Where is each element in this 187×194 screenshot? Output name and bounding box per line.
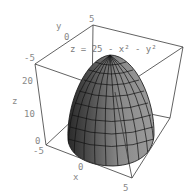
z-tick-20: 20 — [22, 76, 33, 86]
x-axis-label: x — [73, 172, 79, 182]
paraboloid-plot: z = 25 - x² - y² 5 0 y -5 20 z 10 0 -5 0… — [0, 0, 187, 194]
y-tick-5: 5 — [89, 14, 94, 24]
x-tick-0: 0 — [78, 162, 83, 172]
paraboloid-surface — [68, 55, 154, 167]
z-tick-10: 10 — [24, 109, 35, 119]
y-tick-0: 0 — [64, 32, 69, 42]
x-tick-5: 5 — [123, 183, 128, 193]
plot-title: z = 25 - x² - y² — [70, 44, 157, 54]
z-axis-label: z — [12, 96, 17, 106]
y-tick-neg5: -5 — [24, 53, 35, 63]
z-tick-0: 0 — [35, 136, 40, 146]
y-axis-label: y — [56, 21, 62, 31]
x-tick-neg5: -5 — [33, 146, 44, 156]
